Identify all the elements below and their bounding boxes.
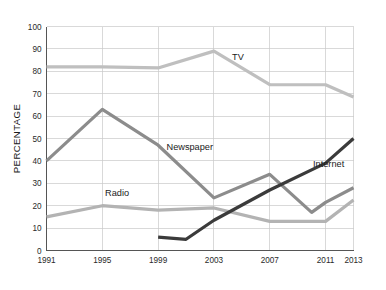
y-tick-label: 40 [32, 157, 42, 166]
series-label-internet: Internet [313, 159, 345, 169]
y-tick-label: 100 [28, 23, 42, 32]
y-tick-label: 50 [32, 135, 42, 144]
x-tick-label: 1995 [93, 256, 112, 265]
y-tick-label: 0 [37, 247, 42, 256]
x-tick-label: 2011 [317, 256, 335, 265]
y-axis-tick-labels: 0102030405060708090100 [28, 23, 42, 256]
chart-container: 0102030405060708090100 19911995199920032… [0, 0, 386, 290]
y-axis-title: PERCENTAGE [11, 104, 22, 173]
x-tick-label: 1999 [149, 256, 168, 265]
x-tick-label: 2007 [261, 256, 280, 265]
y-tick-label: 80 [32, 67, 42, 76]
series-line-tv [47, 51, 354, 97]
y-tick-label: 70 [32, 90, 42, 99]
series-label-radio: Radio [105, 188, 129, 198]
grid-lines [47, 27, 354, 251]
x-axis-tick-labels: 1991199519992003200720112013 [37, 256, 363, 265]
series-line-internet [158, 139, 353, 240]
series-label-newspaper: Newspaper [167, 142, 213, 152]
series-label-tv: TV [232, 52, 245, 62]
y-tick-label: 20 [32, 202, 42, 211]
y-axis-title: PERCENTAGE [11, 104, 22, 173]
y-tick-label: 10 [32, 224, 42, 233]
y-tick-label: 60 [32, 112, 42, 121]
x-tick-label: 2013 [344, 256, 363, 265]
y-tick-label: 90 [32, 45, 42, 54]
x-tick-label: 1991 [37, 256, 56, 265]
line-chart: 0102030405060708090100 19911995199920032… [0, 0, 386, 290]
x-tick-label: 2003 [205, 256, 224, 265]
y-tick-label: 30 [32, 179, 42, 188]
series-labels: TVNewspaperRadioInternet [105, 52, 345, 198]
